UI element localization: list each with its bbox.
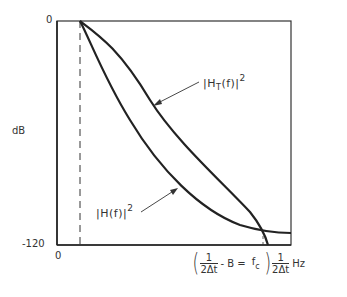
arrow-h xyxy=(141,190,175,212)
label-ht: |HT(f)|2 xyxy=(203,73,246,92)
x-tick-origin: 0 xyxy=(55,250,61,261)
y-tick-bottom: -120 xyxy=(22,238,45,249)
curve-h xyxy=(80,21,291,233)
fc-symbol: fc xyxy=(252,256,260,271)
fraction-2: 1 2Δt xyxy=(272,252,289,275)
y-tick-top: 0 xyxy=(46,14,52,25)
fraction-1: 1 2Δt xyxy=(200,252,217,275)
arrowhead-h-icon xyxy=(170,188,178,195)
x-axis-expression: ( 1 2Δt - B = fc ) 1 2Δt Hz xyxy=(191,251,308,275)
arrow-ht xyxy=(156,82,199,104)
label-h: |H(f)|2 xyxy=(96,203,133,220)
y-axis-label: dB xyxy=(12,125,25,136)
arrowhead-ht-icon xyxy=(153,99,162,106)
